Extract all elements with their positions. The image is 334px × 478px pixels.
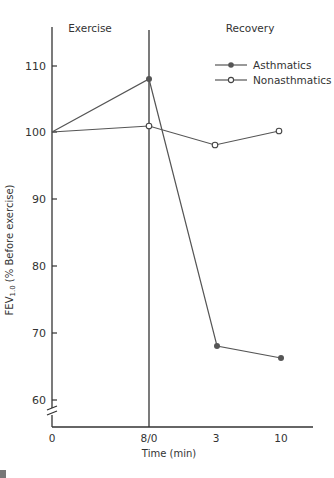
phase-label-exercise: Exercise <box>68 22 112 34</box>
y-tick-label: 100 <box>25 126 46 139</box>
x-tick-label: 0 <box>49 432 56 444</box>
x-tick-label: 3 <box>213 432 220 444</box>
filled-circle-icon <box>228 62 234 68</box>
y-tick-label: 110 <box>25 60 46 73</box>
y-axis-title: FEV1.0 (% Before exercise) <box>4 184 17 315</box>
legend: Asthmatics Nonasthmatics <box>215 59 332 86</box>
filled-circle-icon <box>278 355 284 361</box>
open-circle-icon <box>276 128 282 134</box>
x-tick-label: 10 <box>274 432 287 444</box>
legend-label-nonasthmatics: Nonasthmatics <box>253 74 332 86</box>
phase-label-recovery: Recovery <box>226 22 275 34</box>
fev-chart: 110 100 90 80 70 60 0 8/0 3 10 Time (min… <box>0 0 334 478</box>
asthmatics-markers <box>146 76 284 361</box>
y-tick-label: 80 <box>32 260 46 273</box>
filled-circle-icon <box>146 76 152 82</box>
open-circle-icon <box>212 142 218 148</box>
nonasthmatics-markers <box>146 123 282 148</box>
y-tick-label: 90 <box>32 193 46 206</box>
y-tick-label: 60 <box>32 394 46 407</box>
x-tick-label: 8/0 <box>141 432 158 444</box>
filled-circle-icon <box>214 343 220 349</box>
series-asthmatics-line <box>52 79 281 358</box>
y-tick-label: 70 <box>32 327 46 340</box>
x-axis-title: Time (min) <box>141 448 196 459</box>
open-circle-icon <box>228 77 233 82</box>
legend-label-asthmatics: Asthmatics <box>253 59 311 71</box>
y-ticks <box>52 66 57 400</box>
open-circle-icon <box>146 123 152 129</box>
corner-mark <box>0 470 6 478</box>
